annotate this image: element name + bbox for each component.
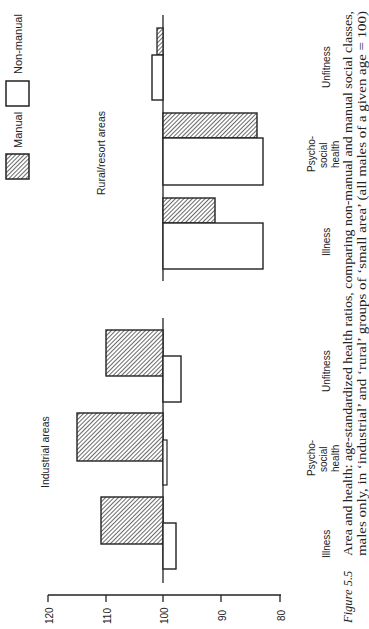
bar-rural-psycho-nonmanual [163,138,263,185]
value-axis [48,595,281,602]
panel-industrial [77,318,181,583]
cat-industrial-psycho-1: Psycho- [306,440,317,476]
bar-rural-psycho-manual [163,113,257,138]
bar-rural-unfitness-nonmanual [152,55,163,100]
bar-rural-unfitness-manual [157,28,163,55]
bar-industrial-psycho-manual [77,413,163,461]
cat-rural-psycho-1: Psycho- [306,136,317,172]
cat-industrial-illness: Illness [321,530,332,558]
panel-title-rural: Rural/resort areas [95,111,107,195]
caption-line-1: Area and health: age-standardized health… [341,11,355,556]
chart-figure: Manual Non-manual Rural/resort areas Ind… [0,0,369,629]
tick-100: 100 [159,607,170,624]
bar-industrial-illness-nonmanual [163,523,176,569]
bar-rural-illness-manual [163,198,215,223]
cat-industrial-psycho-3: health [330,445,341,472]
value-axis-ticks: 120 110 100 90 80 [44,607,287,624]
cat-industrial-psycho-2: social [318,446,329,472]
category-labels-industrial: Unfitness Psycho- social health Illness [306,350,341,558]
bar-industrial-unfitness-nonmanual [163,356,181,402]
bar-industrial-unfitness-manual [106,330,163,376]
panel-rural [152,15,263,281]
cat-rural-psycho-2: social [318,142,329,168]
cat-rural-illness: Illness [321,228,332,256]
bar-rural-illness-nonmanual [163,223,263,269]
tick-120: 120 [44,607,55,624]
cat-rural-unfitness: Unfitness [321,46,332,88]
bar-industrial-psycho-nonmanual [163,440,167,485]
bar-industrial-illness-manual [101,497,163,544]
tick-110: 110 [102,608,113,624]
tick-80: 80 [276,609,287,621]
cat-rural-psycho-3: health [330,141,341,168]
panel-title-industrial: Industrial areas [39,416,51,488]
caption-figure-number: Figure 5.5 [341,571,355,624]
legend-swatch-nonmanual [6,81,29,106]
legend-label-nonmanual: Non-manual [12,14,24,74]
category-labels-rural: Unfitness Psycho- social health Illness [306,46,341,256]
tick-90: 90 [217,609,228,621]
figure-caption: Figure 5.5 Area and health: age-standard… [341,11,369,624]
cat-industrial-unfitness: Unfitness [321,350,332,392]
legend-label-manual: Manual [12,112,24,148]
caption-line-2: males only, in ‘industrial’ and ‘rural’ … [355,11,369,556]
legend: Manual Non-manual [6,14,29,179]
legend-swatch-manual [6,154,29,179]
